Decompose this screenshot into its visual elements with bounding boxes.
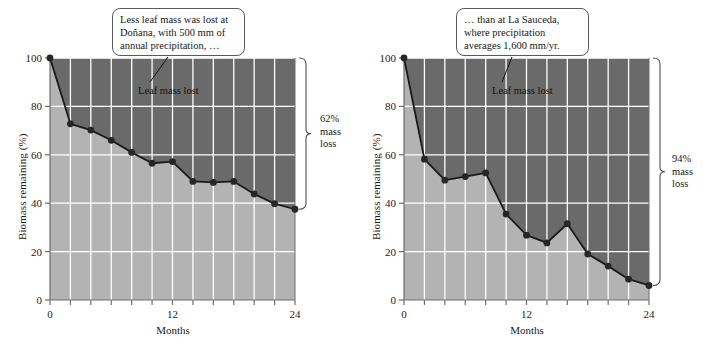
x-axis-title: Months: [467, 324, 587, 336]
y-tick-label: 100: [380, 52, 397, 64]
data-point: [482, 170, 489, 177]
data-point: [605, 263, 612, 270]
mass-loss-bracket-label-la-sauceda: 94% mass loss: [672, 153, 706, 191]
chart-panel-la-sauceda: 02040608010001224 Biomass remaining (%) …: [354, 0, 709, 346]
y-tick-label: 0: [391, 294, 397, 306]
y-tick-label: 40: [385, 197, 397, 209]
data-point: [210, 179, 217, 186]
x-tick-label: 0: [401, 308, 407, 320]
y-tick-label: 80: [385, 100, 397, 112]
y-tick-label: 20: [385, 246, 397, 258]
data-point: [564, 220, 571, 227]
data-point: [421, 156, 428, 163]
data-point: [47, 55, 54, 62]
x-axis-title: Months: [113, 324, 233, 336]
y-tick-label: 40: [31, 197, 43, 209]
data-point: [271, 200, 278, 207]
x-tick-label: 24: [644, 308, 656, 320]
data-point: [503, 211, 510, 218]
data-point: [190, 178, 197, 185]
y-axis-title: Biomass remaining (%): [370, 133, 382, 240]
leaf-mass-lost-label-donana: Leaf mass lost: [138, 85, 199, 96]
data-point: [292, 206, 299, 213]
data-point: [625, 276, 632, 283]
x-tick-label: 12: [167, 308, 178, 320]
data-point: [67, 120, 74, 127]
y-axis-title: Biomass remaining (%): [16, 133, 28, 240]
y-tick-label: 60: [31, 149, 43, 161]
data-point: [462, 173, 469, 180]
callout-la-sauceda: … than at La Sauceda, where precipitatio…: [456, 8, 589, 56]
x-ticks: 01224: [47, 300, 301, 320]
x-tick-label: 24: [290, 308, 302, 320]
callout-donana: Less leaf mass was lost at Doñana, with …: [112, 8, 245, 56]
data-point: [108, 137, 115, 144]
figure-root: 02040608010001224 Biomass remaining (%) …: [0, 0, 709, 346]
data-point: [169, 158, 176, 165]
leaf-mass-lost-label-la-sauceda: Leaf mass lost: [492, 85, 553, 96]
data-point: [441, 177, 448, 184]
y-tick-label: 100: [26, 52, 43, 64]
data-point: [584, 251, 591, 258]
y-tick-label: 80: [31, 100, 43, 112]
y-tick-label: 0: [37, 294, 43, 306]
y-tick-label: 60: [385, 149, 397, 161]
y-ticks: 020406080100: [380, 52, 405, 306]
mass-loss-bracket-label-donana: 62% mass loss: [320, 113, 354, 151]
y-tick-label: 20: [31, 246, 43, 258]
x-tick-label: 12: [521, 308, 532, 320]
data-point: [646, 282, 653, 289]
y-ticks: 020406080100: [26, 52, 51, 306]
data-point: [128, 149, 135, 156]
mass-loss-bracket: [653, 58, 665, 285]
data-point: [251, 191, 258, 198]
data-point: [87, 127, 94, 134]
chart-panel-donana: 02040608010001224 Biomass remaining (%) …: [0, 0, 355, 346]
mass-loss-bracket: [299, 58, 311, 209]
data-point: [523, 232, 530, 239]
data-point: [149, 160, 156, 167]
x-tick-label: 0: [47, 308, 53, 320]
data-point: [401, 55, 408, 62]
x-ticks: 01224: [401, 300, 655, 320]
data-point: [544, 239, 551, 246]
data-point: [230, 178, 237, 185]
